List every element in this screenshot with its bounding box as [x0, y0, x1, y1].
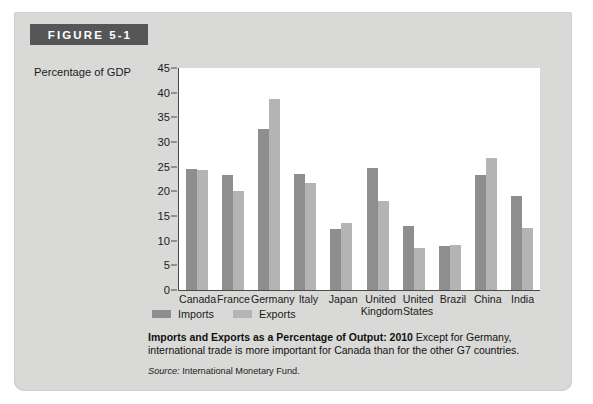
bar-exports	[233, 191, 244, 290]
bar-imports	[511, 196, 522, 290]
y-axis-title: Percentage of GDP	[34, 66, 131, 78]
bar-chart: 051015202530354045	[150, 68, 540, 290]
y-axis-tick-label: 5	[164, 259, 170, 271]
legend-label-exports: Exports	[259, 308, 296, 320]
legend-swatch-exports	[233, 310, 252, 318]
y-axis-tick-mark	[171, 191, 177, 192]
y-axis-tick-label: 35	[158, 111, 170, 123]
y-axis-tick-label: 45	[158, 62, 170, 74]
y-axis-tick-label: 0	[164, 284, 170, 296]
y-axis-tick-mark	[171, 216, 177, 217]
y-axis-tick-label: 30	[158, 136, 170, 148]
y-axis-tick-label: 10	[158, 235, 170, 247]
figure-number-banner: FIGURE 5-1	[30, 24, 148, 45]
bar-group	[222, 68, 244, 290]
x-axis-category-label: Brazil	[435, 294, 470, 317]
bar-exports	[450, 245, 461, 290]
figure-page: FIGURE 5-1 Percentage of GDP 05101520253…	[0, 0, 593, 404]
bar-exports	[522, 228, 533, 290]
bar-imports	[403, 226, 414, 290]
bar-imports	[258, 129, 269, 290]
bar-group	[367, 68, 389, 290]
bar-group	[475, 68, 497, 290]
y-axis-tick-mark	[171, 290, 177, 291]
bar-group	[511, 68, 533, 290]
chart-legend: Imports Exports	[152, 308, 308, 320]
y-axis-tick-label: 40	[158, 87, 170, 99]
x-axis-category-label: India	[505, 294, 540, 317]
bar-imports	[186, 169, 197, 290]
figure-caption: Imports and Exports as a Percentage of O…	[148, 331, 548, 358]
bar-imports	[294, 174, 305, 290]
bar-group	[330, 68, 352, 290]
x-axis-category-label: UnitedStates	[401, 294, 436, 317]
bar-group	[403, 68, 425, 290]
bar-exports	[378, 201, 389, 290]
y-axis-tick-label: 20	[158, 185, 170, 197]
y-axis-ticks: 051015202530354045	[150, 68, 178, 290]
y-axis-tick-mark	[171, 68, 177, 69]
bar-imports	[222, 175, 233, 290]
bar-exports	[197, 170, 208, 290]
figure-number-label: FIGURE 5-1	[46, 29, 132, 41]
plot-area	[179, 68, 540, 290]
y-axis-tick-mark	[171, 92, 177, 93]
bar-group	[439, 68, 461, 290]
bar-group	[258, 68, 280, 290]
bar-exports	[305, 183, 316, 290]
y-axis-tick-mark	[171, 166, 177, 167]
y-axis-tick-mark	[171, 240, 177, 241]
bar-imports	[475, 175, 486, 290]
source-text: International Monetary Fund.	[182, 366, 299, 376]
figure-source: Source: International Monetary Fund.	[148, 366, 300, 376]
y-axis-tick-label: 25	[158, 161, 170, 173]
bar-exports	[341, 223, 352, 290]
y-axis-tick-mark	[171, 117, 177, 118]
legend-swatch-imports	[152, 310, 171, 318]
y-axis-tick-mark	[171, 265, 177, 266]
source-label: Source:	[148, 366, 180, 376]
caption-lead: Imports and Exports as a Percentage of O…	[148, 331, 413, 343]
x-axis-line	[178, 290, 540, 291]
x-axis-category-label: China	[470, 294, 505, 317]
y-axis-tick-mark	[171, 142, 177, 143]
legend-label-imports: Imports	[178, 308, 214, 320]
bar-group	[186, 68, 208, 290]
bar-imports	[330, 229, 341, 290]
x-axis-category-label: Japan	[326, 294, 361, 317]
bar-group	[294, 68, 316, 290]
bar-imports	[439, 246, 450, 290]
y-axis-tick-label: 15	[158, 210, 170, 222]
bar-exports	[269, 99, 280, 290]
x-axis-category-label: UnitedKingdom	[361, 294, 401, 317]
bar-exports	[486, 158, 497, 290]
bar-exports	[414, 248, 425, 290]
bar-imports	[367, 168, 378, 290]
